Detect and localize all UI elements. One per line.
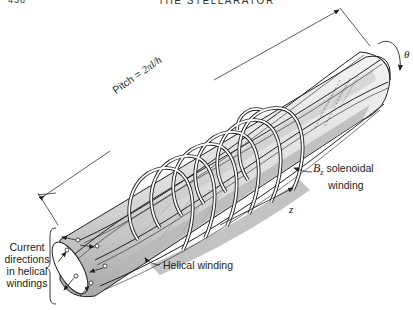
solenoid-label-line1: solenoidal [323,162,373,174]
solenoid-winding-label: Bz solenoidal winding [313,162,374,191]
current-label-line4: windings [4,277,50,289]
current-label-line1: Current [4,241,50,253]
solenoid-label-line2: winding [313,179,374,191]
z-axis-label: z [289,203,293,215]
current-label-line2: directions [4,253,50,265]
theta-label: θ [404,48,409,60]
current-label-line3: in helical [4,265,50,277]
solenoid-leader-line [294,168,312,172]
helical-winding-label: Helical winding [163,259,233,271]
current-directions-label: Current directions in helical windings [4,241,50,289]
